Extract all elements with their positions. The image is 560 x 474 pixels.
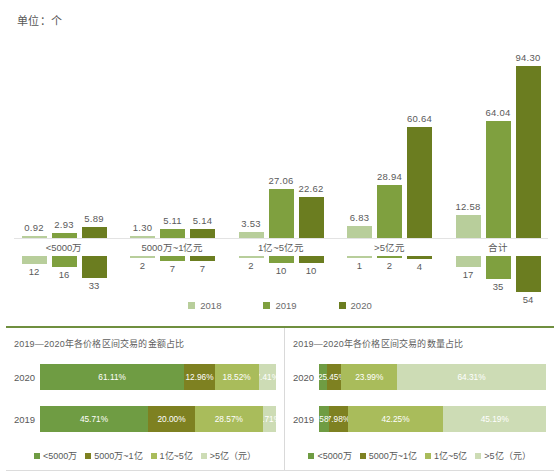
bar-value-label: 1 [357, 260, 362, 271]
bar-rect [82, 256, 107, 278]
category-label: >5亿元 [340, 240, 440, 254]
range-legend-item-2[interactable]: 1亿~5亿 [151, 449, 193, 462]
upper-bars: 1.305.115.14 [123, 33, 223, 238]
panel-amount-share: 2019—2020年各价格区间交易的金额占比 2020 61.11%12.96%… [6, 328, 285, 470]
bar-value-label: 17 [463, 269, 474, 280]
chart-group-0: 0.922.935.89<5000万121633 [14, 30, 114, 315]
bar-2020: 5.89 [82, 227, 107, 238]
legend-label: 1亿~5亿 [160, 449, 193, 462]
bar-rect [130, 236, 155, 238]
legend-item-2020[interactable]: 2020 [339, 300, 372, 311]
count-bar-2020: 4 [407, 256, 432, 259]
count-bar-2019: 7 [160, 256, 185, 261]
bar-rect [407, 127, 432, 238]
legend-swatch-icon [475, 453, 481, 459]
bar-2019: 2.93 [52, 233, 77, 238]
range-legend-item-2[interactable]: 1亿~5亿 [425, 449, 467, 462]
legend-item-2018[interactable]: 2018 [188, 300, 221, 311]
chart-group-1: 1.305.115.145000万~1亿元277 [123, 30, 223, 315]
count-bar-2018: 2 [239, 256, 264, 258]
bar-value-label: 94.30 [516, 52, 541, 63]
bar-value-label: 35 [493, 281, 504, 292]
chart-group-3: 6.8328.9460.64>5亿元124 [340, 30, 440, 315]
stack-segment-0: 45.71% [40, 406, 148, 432]
bar-2019: 64.04 [486, 121, 511, 238]
bar-rect [52, 233, 77, 238]
bar-rect [52, 256, 77, 267]
bar-value-label: 28.94 [377, 171, 402, 182]
legend-label: <5000万 [43, 449, 77, 462]
upper-bars: 6.8328.9460.64 [340, 33, 440, 238]
stack-segment-3: 64.31% [397, 364, 546, 390]
legend-swatch-icon [360, 453, 366, 459]
bar-rect [190, 229, 215, 238]
category-label: 1亿~5亿元 [231, 240, 331, 254]
range-legend-item-1[interactable]: 5000万~1亿 [85, 449, 142, 462]
row-label: 2020 [14, 372, 40, 383]
stacked-row-2020: 2020 61.11%12.96%18.52%7.41% [14, 364, 276, 390]
bar-rect [22, 236, 47, 238]
panel-title: 2019—2020年各价格区间交易的数量占比 [293, 337, 463, 350]
legend-label: 2018 [200, 300, 221, 311]
bar-rect [299, 197, 324, 238]
stack-segment-2: 18.52% [215, 364, 259, 390]
share-panels: 2019—2020年各价格区间交易的金额占比 2020 61.11%12.96%… [6, 326, 554, 471]
bar-rect [486, 256, 511, 279]
bar-rect [486, 121, 511, 238]
bar-value-label: 6.83 [350, 212, 369, 223]
bar-value-label: 12.58 [456, 201, 481, 212]
bar-rect [160, 256, 185, 261]
bar-value-label: 60.64 [407, 113, 432, 124]
year-legend: 201820192020 [0, 300, 560, 311]
bar-2018: 6.83 [347, 226, 372, 238]
range-legend-item-3[interactable]: >5亿（元） [475, 449, 530, 462]
legend-label: <5000万 [317, 449, 351, 462]
bar-2019: 28.94 [377, 185, 402, 238]
stack-segment-3: 45.19% [443, 406, 546, 432]
bar-value-label: 3.53 [241, 218, 260, 229]
bar-value-label: 16 [59, 269, 70, 280]
count-bar-2019: 10 [269, 256, 294, 263]
legend-swatch-icon [85, 453, 91, 459]
stacked-bar: 61.11%12.96%18.52%7.41% [40, 364, 276, 390]
range-legend-item-0[interactable]: <5000万 [34, 449, 77, 462]
bar-rect [22, 256, 47, 264]
row-label: 2019 [293, 414, 319, 425]
bar-value-label: 2 [248, 260, 253, 271]
category-label: 合计 [448, 240, 548, 254]
bar-2020: 22.62 [299, 197, 324, 238]
row-label: 2019 [14, 414, 40, 425]
panel-count-share: 2019—2020年各价格区间交易的数量占比 2020 3.25%6.45%23… [285, 328, 554, 470]
stack-segment-3: 5.71% [263, 406, 276, 432]
count-bar-2020: 10 [299, 256, 324, 263]
bar-rect [516, 256, 541, 292]
count-bar-2020: 33 [82, 256, 107, 278]
bar-2018: 12.58 [456, 215, 481, 238]
legend-label: >5亿（元） [484, 449, 530, 462]
bar-value-label: 1.30 [133, 222, 152, 233]
stacked-bar: 4.58%7.98%42.25%45.19% [319, 406, 546, 432]
range-legend-item-3[interactable]: >5亿（元） [201, 449, 256, 462]
legend-item-2019[interactable]: 2019 [263, 300, 296, 311]
bar-rect [407, 256, 432, 259]
bar-rect [347, 256, 372, 258]
bar-value-label: 2 [387, 260, 392, 271]
bar-2019: 5.11 [160, 229, 185, 238]
legend-label: 2020 [351, 300, 372, 311]
stacked-row-2020: 2020 3.25%6.45%23.99%64.31% [293, 364, 546, 390]
count-bar-2018: 12 [22, 256, 47, 264]
bar-value-label: 5.11 [163, 215, 182, 226]
range-legend-item-1[interactable]: 5000万~1亿 [360, 449, 417, 462]
bar-rect [456, 215, 481, 238]
stack-segment-0: 3.25% [319, 364, 327, 390]
upper-bars: 12.5864.0494.30 [448, 33, 548, 238]
bar-value-label: 2.93 [54, 219, 73, 230]
legend-label: >5亿（元） [210, 449, 256, 462]
stack-segment-0: 61.11% [40, 364, 184, 390]
stacked-bar: 3.25%6.45%23.99%64.31% [319, 364, 546, 390]
stacked-row-2019: 2019 4.58%7.98%42.25%45.19% [293, 406, 546, 432]
row-label: 2020 [293, 372, 319, 383]
range-legend-item-0[interactable]: <5000万 [308, 449, 351, 462]
bar-rect [516, 66, 541, 238]
stacked-row-2019: 2019 45.71%20.00%28.57%5.71% [14, 406, 276, 432]
